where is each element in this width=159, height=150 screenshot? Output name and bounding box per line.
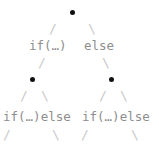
tree-label-lvl1-else: else (84, 39, 114, 53)
tree-edge-leaf-4: \ (131, 128, 139, 141)
tree-label-lvl2-right: if(…)else (82, 110, 150, 124)
tree-edge-left-b: \ (41, 89, 49, 102)
tree-edge-root-right: \ (88, 22, 96, 35)
tree-label-lvl2-left: if(…)else (3, 110, 71, 124)
tree-edge-left-a: / (20, 89, 28, 102)
tree-edge-leaf-3: / (81, 128, 89, 141)
tree-edge-leaf-1: / (3, 128, 11, 141)
tree-edge-leaf-2: \ (52, 128, 60, 141)
tree-edge-lvl1-right: \ (102, 56, 110, 69)
if-else-tree-diagram: /\/\/\/\/\/\if(…)elseif(…)elseif(…)else (0, 0, 159, 150)
tree-node-root (70, 10, 75, 15)
tree-label-lvl1-if: if(…) (29, 39, 67, 53)
tree-node-right (109, 77, 114, 82)
tree-edge-right-a: / (99, 89, 107, 102)
tree-node-left (30, 77, 35, 82)
tree-edge-root-left: / (49, 22, 57, 35)
tree-edge-lvl1-left: / (38, 56, 46, 69)
tree-edge-right-b: \ (120, 89, 128, 102)
